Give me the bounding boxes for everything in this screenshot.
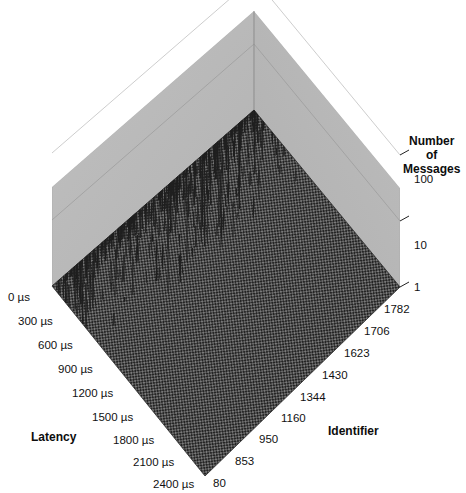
mask-left-upper	[0, 0, 52, 187]
x-axis-title: Latency	[31, 430, 76, 444]
z-axis-title-line1: Number	[403, 134, 460, 148]
z-tick-1: 1	[414, 281, 420, 293]
x-tick-1500: 1500 µs	[92, 411, 133, 423]
x-tick-0: 0 µs	[8, 291, 30, 303]
y-tick-950: 950	[259, 433, 278, 445]
x-tick-900: 900 µs	[58, 363, 93, 375]
y-axis-title: Identifier	[328, 424, 379, 438]
y-tick-80: 80	[213, 477, 226, 489]
x-tick-2100: 2100 µs	[133, 456, 174, 468]
z-axis-title: Number of Messages	[403, 134, 460, 176]
chart-canvas	[0, 0, 466, 493]
y-tick-1344: 1344	[300, 391, 326, 403]
z-tick-100: 100	[414, 173, 433, 185]
z-tick-10: 10	[414, 239, 427, 251]
x-tick-2400: 2400 µs	[153, 478, 194, 490]
y-tick-853: 853	[235, 455, 254, 467]
y-tick-1706: 1706	[364, 325, 390, 337]
mask-left-lowerwedge	[0, 187, 52, 286]
figure-3d-latency-identifier-messages: differ from the average values.	[0, 0, 466, 493]
y-tick-1782: 1782	[384, 303, 410, 315]
z-axis-title-line2: of	[403, 148, 460, 162]
x-tick-1800: 1800 µs	[113, 434, 154, 446]
y-tick-1623: 1623	[344, 347, 370, 359]
y-tick-1430: 1430	[322, 369, 348, 381]
x-tick-600: 600 µs	[38, 339, 73, 351]
mask-right-lowerwedge	[400, 188, 466, 287]
mask-bottom-strip	[0, 476, 466, 493]
y-tick-1160: 1160	[281, 412, 306, 424]
x-tick-1200: 1200 µs	[72, 387, 113, 399]
x-tick-300: 300 µs	[18, 315, 53, 327]
